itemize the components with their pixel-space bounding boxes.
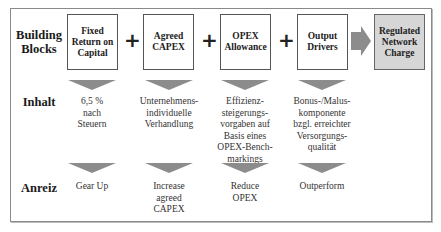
block-label-line: OPEX	[224, 31, 266, 42]
block-label-line: Agreed	[152, 31, 185, 42]
anreiz-line: Outperform	[288, 181, 356, 193]
inhalt-cell-agreed-capex: Unternehmens- individuelle Verhandlung	[135, 96, 203, 131]
block-label-line: Allowance	[224, 42, 266, 53]
right-arrow-icon	[351, 26, 371, 56]
anreiz-line: Increase	[135, 181, 203, 193]
plus-operator-3: +	[278, 30, 295, 50]
row-label-inhalt: Inhalt	[14, 95, 64, 109]
down-arrow-icon	[145, 80, 193, 90]
inhalt-line: individuelle	[135, 108, 203, 120]
result-label-line: Charge	[379, 48, 420, 59]
down-arrow-icon	[68, 80, 116, 90]
result-label-line: Network	[379, 37, 420, 48]
block-label-line: CAPEX	[152, 42, 185, 53]
inhalt-line: komponente	[286, 108, 358, 120]
inhalt-cell-opex-allowance: Effizienz- steigerungs- vorgaben auf Bas…	[211, 96, 279, 165]
row-label-building-blocks-line2: Blocks	[14, 42, 64, 56]
block-regulated-network-charge: Regulated Network Charge	[374, 14, 425, 70]
inhalt-line: 6,5 %	[58, 96, 126, 108]
anreiz-cell-output-drivers: Outperform	[288, 181, 356, 193]
down-arrow-icon	[298, 80, 346, 90]
block-label-line: Output	[307, 31, 338, 42]
block-output-drivers: Output Drivers	[297, 14, 348, 70]
inhalt-line: Versorgungs-	[286, 131, 358, 143]
inhalt-line: Bonus-/Malus-	[286, 96, 358, 108]
anreiz-line: Gear Up	[58, 181, 126, 193]
anreiz-cell-fixed-return: Gear Up	[58, 181, 126, 193]
inhalt-cell-fixed-return: 6,5 % nach Steuern	[58, 96, 126, 131]
block-label-line: Capital	[72, 48, 113, 59]
inhalt-line: qualität	[286, 142, 358, 154]
down-arrow-icon	[221, 80, 269, 90]
anreiz-cell-opex-allowance: Reduce OPEX	[211, 181, 279, 204]
block-agreed-capex: Agreed CAPEX	[143, 14, 194, 70]
row-label-building-blocks: Building Blocks	[14, 28, 64, 56]
down-arrow-icon	[68, 163, 116, 173]
down-arrow-icon	[221, 163, 269, 173]
anreiz-line: Reduce	[211, 181, 279, 193]
plus-operator-1: +	[124, 30, 141, 50]
block-label-line: Drivers	[307, 42, 338, 53]
row-label-anreiz: Anreiz	[14, 181, 64, 195]
inhalt-cell-output-drivers: Bonus-/Malus- komponente bzgl. erreichte…	[286, 96, 358, 154]
row-label-building-blocks-line1: Building	[14, 28, 64, 42]
inhalt-line: Basis eines	[211, 131, 279, 143]
inhalt-line: Effizienz-	[211, 96, 279, 108]
inhalt-line: Unternehmens-	[135, 96, 203, 108]
block-label-line: Return on	[72, 37, 113, 48]
down-arrow-icon	[298, 163, 346, 173]
plus-operator-2: +	[201, 30, 218, 50]
inhalt-line: Verhandlung	[135, 119, 203, 131]
result-label-line: Regulated	[379, 26, 420, 37]
anreiz-cell-agreed-capex: Increase agreed CAPEX	[135, 181, 203, 216]
anreiz-line: OPEX	[211, 193, 279, 205]
anreiz-line: agreed	[135, 193, 203, 205]
inhalt-line: bzgl. erreichter	[286, 119, 358, 131]
inhalt-line: vorgaben auf	[211, 119, 279, 131]
inhalt-line: nach	[58, 108, 126, 120]
block-label-line: Fixed	[72, 26, 113, 37]
down-arrow-icon	[145, 163, 193, 173]
anreiz-line: CAPEX	[135, 204, 203, 216]
inhalt-line: OPEX-Bench-	[211, 142, 279, 154]
block-fixed-return-on-capital: Fixed Return on Capital	[67, 14, 118, 70]
block-opex-allowance: OPEX Allowance	[220, 14, 271, 70]
inhalt-line: steigerungs-	[211, 108, 279, 120]
inhalt-line: Steuern	[58, 119, 126, 131]
